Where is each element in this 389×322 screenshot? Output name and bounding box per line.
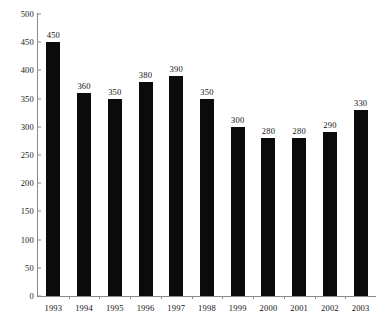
- x-axis-tick-label: 1993: [44, 303, 62, 313]
- bar: [169, 76, 183, 296]
- y-axis-tick-mark: [38, 98, 41, 99]
- y-axis-tick-label: 0: [30, 291, 34, 301]
- y-axis-tick-label: 350: [21, 94, 34, 104]
- bar-value-label: 280: [292, 126, 305, 136]
- y-axis-tick-label: 450: [21, 37, 34, 47]
- x-axis-tick-mark: [222, 296, 223, 299]
- x-axis-tick-label: 2001: [290, 303, 308, 313]
- y-axis-tick-mark: [38, 183, 41, 184]
- bar: [261, 138, 275, 296]
- bar-value-label: 390: [170, 64, 183, 74]
- x-axis-tick-label: 1998: [198, 303, 216, 313]
- plot-area: [38, 14, 376, 296]
- y-axis-tick-label: 150: [21, 206, 34, 216]
- y-axis-tick-label: 200: [21, 178, 34, 188]
- x-axis-tick-mark: [284, 296, 285, 299]
- y-axis-tick-mark: [38, 155, 41, 156]
- bar-value-label: 350: [108, 87, 121, 97]
- y-axis-tick-mark: [38, 211, 41, 212]
- bar-value-label: 280: [262, 126, 275, 136]
- bar-value-label: 450: [47, 30, 60, 40]
- x-axis-tick-label: 1995: [106, 303, 124, 313]
- x-axis-tick-mark: [161, 296, 162, 299]
- y-axis-tick-mark: [38, 267, 41, 268]
- x-axis-tick-label: 1999: [229, 303, 247, 313]
- y-axis-tick-mark: [38, 239, 41, 240]
- bar: [231, 127, 245, 296]
- y-axis-tick-label: 300: [21, 122, 34, 132]
- y-axis-tick-label: 250: [21, 150, 34, 160]
- bar-chart: 050100150200250300350400450500 450199336…: [0, 0, 389, 322]
- bar-value-label: 360: [77, 81, 90, 91]
- x-axis-tick-mark: [192, 296, 193, 299]
- bar: [292, 138, 306, 296]
- x-axis-tick-label: 2002: [321, 303, 339, 313]
- x-axis-tick-mark: [130, 296, 131, 299]
- y-axis-tick-label: 400: [21, 65, 34, 75]
- bar: [323, 132, 337, 296]
- y-axis-tick-mark: [38, 126, 41, 127]
- bar: [354, 110, 368, 296]
- y-axis-tick-mark: [38, 14, 41, 15]
- x-axis-tick-mark: [99, 296, 100, 299]
- x-axis-tick-mark: [253, 296, 254, 299]
- y-axis-tick-labels: 050100150200250300350400450500: [0, 0, 34, 322]
- bar-value-label: 350: [200, 87, 213, 97]
- bar-value-label: 300: [231, 115, 244, 125]
- y-axis-tick-mark: [38, 42, 41, 43]
- x-axis-tick-mark: [345, 296, 346, 299]
- bar: [139, 82, 153, 296]
- x-axis-tick-label: 2003: [352, 303, 370, 313]
- x-axis-tick-label: 2000: [260, 303, 278, 313]
- x-axis-tick-mark: [315, 296, 316, 299]
- y-axis-tick-label: 50: [25, 263, 34, 273]
- x-axis-tick-label: 1994: [75, 303, 93, 313]
- y-axis-tick-label: 500: [21, 9, 34, 19]
- bar-value-label: 330: [354, 98, 367, 108]
- x-axis-tick-label: 1997: [167, 303, 185, 313]
- x-axis-tick-label: 1996: [137, 303, 155, 313]
- y-axis-tick-mark: [38, 70, 41, 71]
- x-axis-tick-mark: [69, 296, 70, 299]
- bar-value-label: 290: [323, 120, 336, 130]
- y-axis-tick-mark: [38, 296, 41, 297]
- y-axis-tick-label: 100: [21, 235, 34, 245]
- bar: [200, 99, 214, 296]
- x-axis-line: [37, 296, 376, 297]
- bar: [46, 42, 60, 296]
- bar: [77, 93, 91, 296]
- bar-value-label: 380: [139, 70, 152, 80]
- bar: [108, 99, 122, 296]
